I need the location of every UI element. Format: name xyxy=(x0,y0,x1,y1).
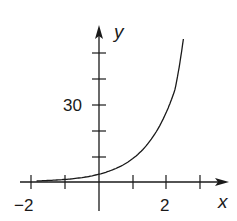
chart: −2 2 30 x y xyxy=(0,0,237,221)
x-tick-label-2: 2 xyxy=(160,196,169,215)
x-axis-label: x xyxy=(217,191,229,212)
y-axis-label: y xyxy=(112,21,125,42)
exponential-curve xyxy=(37,39,184,181)
x-tick-label-neg2: −2 xyxy=(14,196,33,215)
y-tick-label-30: 30 xyxy=(63,96,82,115)
